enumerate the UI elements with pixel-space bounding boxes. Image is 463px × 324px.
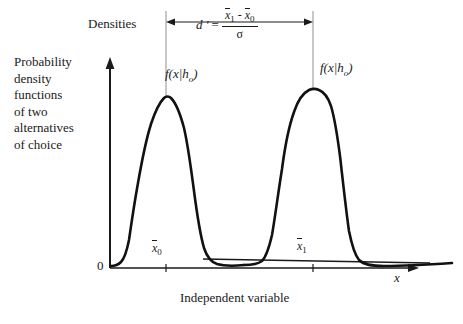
side-caption-line-4: of two — [14, 104, 110, 121]
curve-label-left: f(x|ho) — [165, 66, 198, 84]
x-axis-title: Independent variable — [180, 290, 289, 305]
dprime-numerator: x1 - x0 — [222, 8, 258, 27]
dprime-equals: = — [212, 17, 219, 32]
curve-label-right: f(x|ho) — [320, 60, 353, 78]
tick-label-x0: x0 — [152, 240, 162, 258]
side-caption: Probability density functions of two alt… — [14, 54, 110, 153]
tick-label-x0-subscript: 0 — [157, 247, 162, 257]
dprime-symbol: d ' — [196, 17, 209, 32]
side-caption-line-1: Probability — [14, 54, 110, 71]
dprime-arrowhead-right-icon — [304, 18, 313, 25]
density-curve-right — [244, 89, 452, 266]
origin-label: 0 — [97, 258, 104, 273]
curve-label-left-main: f(x|h — [165, 66, 189, 81]
density-curve-left — [111, 97, 244, 267]
side-caption-line-2: density — [14, 71, 110, 88]
figure-container: Densities Probability density functions … — [0, 0, 463, 324]
tick-label-x1: x1 — [297, 238, 307, 256]
dprime-arrowhead-left-icon — [166, 18, 175, 25]
dprime-fraction: x1 - x0 σ — [222, 8, 258, 40]
dprime-denominator: σ — [236, 27, 242, 41]
curve-label-right-main: f(x|h — [320, 60, 344, 75]
side-caption-line-3: functions — [14, 87, 110, 104]
x1-mean-subscript: 1 — [230, 14, 235, 24]
x-axis-symbol: x — [394, 270, 400, 285]
curve-label-right-close: ) — [348, 60, 352, 75]
dprime-minus: - — [238, 8, 242, 22]
x0-mean-subscript: 0 — [250, 14, 255, 24]
side-caption-line-6: of choice — [14, 137, 110, 154]
baseline-tail-segment — [203, 259, 430, 263]
densities-label: Densities — [88, 16, 136, 31]
side-caption-line-5: alternatives — [14, 120, 110, 137]
curve-label-left-close: ) — [193, 66, 197, 81]
dprime-formula: d ' = x1 - x0 σ — [196, 8, 258, 40]
tick-label-x1-subscript: 1 — [302, 245, 307, 255]
